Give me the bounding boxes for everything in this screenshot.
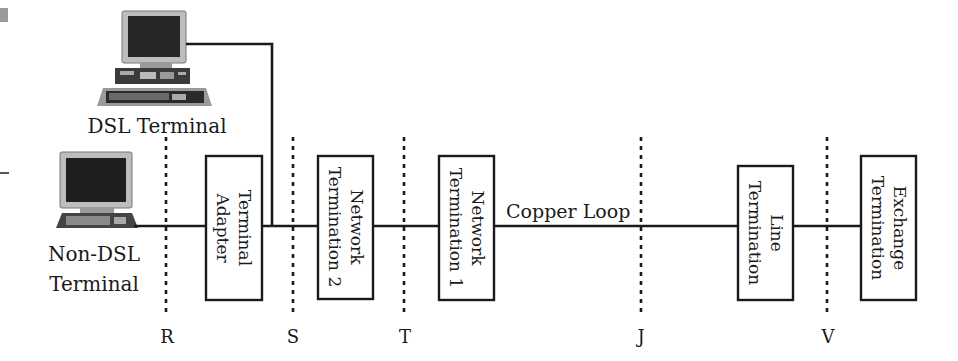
dsl-terminal-label: DSL Terminal [87,114,226,138]
ref-label-t: T [399,326,411,347]
terminal-adapter-line2: Adapter [213,192,233,263]
et-line1: Exchange [890,186,910,271]
lt-line2: Termination [745,181,765,285]
margin-marker [0,8,8,22]
copper-loop-label: Copper Loop [506,200,630,222]
network-termination-2-block: Network Termination 2 [318,156,373,299]
non-dsl-terminal-label-line1: Non-DSL [48,242,140,266]
non-dsl-terminal-label-line2: Terminal [49,272,139,296]
non-dsl-terminal-computer-icon [56,152,138,228]
nt1-line2: Termination 1 [446,168,466,289]
ref-label-r: R [160,326,174,347]
exchange-termination-block: Exchange Termination [861,156,916,300]
et-line2: Termination [868,176,888,280]
dsl-terminal-computer-icon [97,11,212,106]
line-termination-block: Line Termination [738,166,793,300]
margin-dash [0,172,9,174]
network-termination-1-block: Network Termination 1 [439,156,494,300]
nt2-line2: Termination 2 [325,167,345,288]
terminal-adapter-block: Terminal Adapter [206,156,262,300]
nt2-line1: Network [347,190,367,266]
lt-line1: Line [767,214,787,252]
ref-label-s: S [287,326,299,347]
terminal-adapter-line1: Terminal [235,190,255,266]
ref-label-j: J [635,326,644,347]
ref-label-v: V [821,326,836,347]
nt1-line1: Network [468,191,488,267]
dsl-reference-diagram: DSL Terminal Non-DSL Terminal Copper Loo… [0,0,958,361]
